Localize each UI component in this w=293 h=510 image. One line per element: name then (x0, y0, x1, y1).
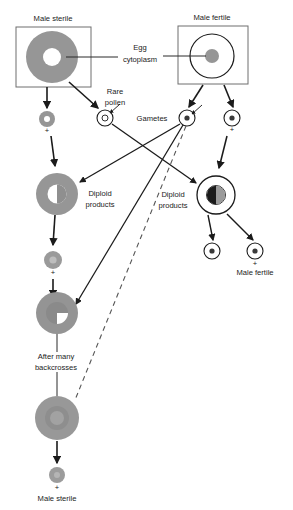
label-diploid-right-line2: products (158, 201, 187, 210)
final-male-sterile-gamete (49, 467, 65, 483)
label-diploid-right-line1: Diploid (161, 190, 184, 199)
label-male-fertile-offspring: Male fertile (236, 268, 273, 277)
dashed-recurrent-parent-line (75, 126, 186, 400)
male-fertile-gamete-right (224, 110, 240, 126)
arrow-fertile-to-gamete-left (189, 85, 203, 107)
label-after-backcrosses-line1: After many (38, 352, 75, 361)
gametes-leader (192, 105, 202, 114)
arrow-left-diploid-to-backcross-gamete (53, 215, 55, 245)
arrow-right-diploid-to-offspring-right (227, 214, 253, 240)
label-male-sterile-bottom: Male sterile (38, 494, 77, 503)
arrow-fertile-to-backcross-zygote (76, 125, 183, 304)
label-male-fertile-top: Male fertile (193, 13, 230, 22)
backcross-gamete (44, 251, 62, 269)
backcross-zygote (36, 292, 78, 334)
arrow-right-diploid-to-offspring-left (208, 215, 213, 240)
label-egg-cytoplasm-line1: Egg (133, 43, 147, 52)
male-fertile-offspring-right (247, 243, 263, 259)
male-sterile-gamete (39, 111, 55, 127)
label-rare-pollen-line1: Rare (107, 87, 123, 96)
label-male-sterile-top: Male sterile (34, 14, 73, 23)
label-after-backcrosses-line2: backcrosses (35, 363, 77, 372)
male-fertile-offspring-left (204, 243, 220, 259)
label-rare-pollen-line2: pollen (105, 98, 125, 107)
arrow-fertile-gamete-to-diploid (219, 136, 227, 168)
arrow-fertile-to-gamete-right (224, 85, 233, 107)
plus-sign-offspring: + (253, 259, 258, 268)
label-diploid-left-line1: Diploid (88, 189, 111, 198)
label-diploid-left-line2: products (85, 200, 114, 209)
diagram-canvas: + + + (0, 0, 293, 510)
diploid-product-fertile (197, 176, 235, 214)
arrow-sterile-gamete-to-diploid (51, 136, 55, 166)
arrow-cross-fertile-to-left-diploid (80, 124, 180, 182)
final-male-sterile-cell (35, 396, 79, 440)
cms-breeding-diagram: + + + (0, 0, 293, 510)
plus-sign-backcross: + (51, 268, 56, 277)
diploid-product-sterile (36, 173, 78, 215)
plus-sign-final: + (55, 483, 60, 492)
plus-sign-sterile-gamete: + (45, 126, 50, 135)
plus-sign-fertile-gamete: + (230, 125, 235, 134)
male-fertile-gamete-left (179, 110, 195, 126)
label-egg-cytoplasm-line2: cytoplasm (123, 55, 157, 64)
label-gametes: Gametes (137, 114, 168, 123)
arrow-sterile-to-rare-pollen (69, 82, 98, 108)
